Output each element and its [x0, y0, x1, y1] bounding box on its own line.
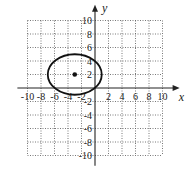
x-tick-label: 6: [133, 91, 138, 102]
y-tick-label: 10: [82, 15, 92, 26]
x-tick-label: -6: [50, 91, 58, 102]
y-axis-label: y: [101, 1, 108, 15]
x-tick-label: 10: [158, 91, 168, 102]
x-tick-label: -8: [37, 91, 45, 102]
y-tick-label: -6: [84, 123, 92, 134]
y-tick-label: -4: [84, 110, 92, 121]
x-tick-label: 8: [147, 91, 152, 102]
x-axis-label: x: [178, 90, 185, 104]
graph: xy-10-8-6-4-2246810108642-2-4-6-8-10: [0, 0, 188, 176]
x-tick-label: -10: [21, 91, 34, 102]
center-point: [72, 72, 77, 77]
y-tick-label: 6: [87, 42, 92, 53]
y-axis-arrow-icon: [92, 5, 98, 12]
y-tick-label: 8: [87, 29, 92, 40]
x-tick-label: 2: [106, 91, 111, 102]
x-tick-label: 4: [120, 91, 125, 102]
y-tick-label: -2: [84, 96, 92, 107]
y-tick-label: 2: [87, 69, 92, 80]
y-tick-label: -8: [84, 137, 92, 148]
y-tick-label: -10: [79, 150, 92, 161]
